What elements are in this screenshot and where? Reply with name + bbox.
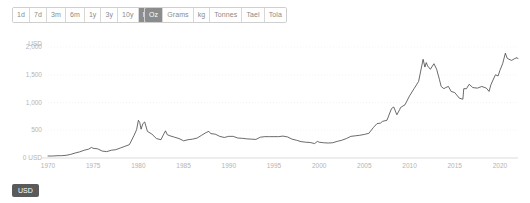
- x-tick-label: 1995: [267, 162, 282, 169]
- chart-plot-area[interactable]: 0 USD5001,0001,5002,000USD 1970197519801…: [0, 30, 530, 180]
- weight-unit-button-group: OzGramskgTonnesTaelTola: [144, 7, 287, 23]
- price-series-line: [48, 53, 518, 156]
- x-tick-label: 2005: [357, 162, 372, 169]
- unit-button-kg[interactable]: kg: [194, 8, 211, 22]
- x-tick-label: 1980: [131, 162, 146, 169]
- x-tick-label: 2020: [493, 162, 508, 169]
- gold-price-chart-widget: 1d7d3m6m1y3y10yMax OzGramskgTonnesTaelTo…: [0, 0, 530, 203]
- x-tick-label: 1975: [86, 162, 101, 169]
- time-range-button-group: 1d7d3m6m1y3y10yMax: [12, 7, 161, 23]
- y-axis-unit-label: USD: [28, 40, 42, 47]
- x-tick-label: 2010: [402, 162, 417, 169]
- gridlines: [48, 47, 518, 130]
- range-button-7d[interactable]: 7d: [30, 8, 47, 22]
- unit-button-grams[interactable]: Grams: [163, 8, 194, 22]
- unit-button-tael[interactable]: Tael: [242, 8, 264, 22]
- unit-button-oz[interactable]: Oz: [145, 8, 163, 22]
- unit-button-tonnes[interactable]: Tonnes: [210, 8, 242, 22]
- range-button-1y[interactable]: 1y: [85, 8, 102, 22]
- range-button-10y[interactable]: 10y: [118, 8, 139, 22]
- y-tick-label: 1,000: [26, 99, 43, 106]
- x-tick-label: 2015: [447, 162, 462, 169]
- x-axis-tick-labels: 1970197519801985199019952000200520102015…: [41, 162, 508, 169]
- chart-toolbar: 1d7d3m6m1y3y10yMax OzGramskgTonnesTaelTo…: [0, 0, 530, 30]
- range-button-6m[interactable]: 6m: [66, 8, 85, 22]
- y-tick-label: 500: [31, 126, 42, 133]
- chart-footer: USD: [0, 180, 530, 203]
- range-button-1d[interactable]: 1d: [13, 8, 30, 22]
- x-tick-label: 1985: [176, 162, 191, 169]
- x-tick-label: 2000: [312, 162, 327, 169]
- x-tick-label: 1970: [41, 162, 56, 169]
- y-tick-label: 1,500: [26, 71, 43, 78]
- unit-button-tola[interactable]: Tola: [265, 8, 286, 22]
- y-tick-label: 0 USD: [23, 154, 42, 161]
- currency-badge[interactable]: USD: [12, 184, 39, 197]
- price-line-chart: 0 USD5001,0001,5002,000USD 1970197519801…: [0, 30, 530, 180]
- y-axis-tick-labels: 0 USD5001,0001,5002,000USD: [23, 40, 43, 161]
- range-button-3m[interactable]: 3m: [47, 8, 66, 22]
- range-button-3y[interactable]: 3y: [101, 8, 118, 22]
- x-tick-label: 1990: [222, 162, 237, 169]
- series-line-0: [48, 53, 518, 156]
